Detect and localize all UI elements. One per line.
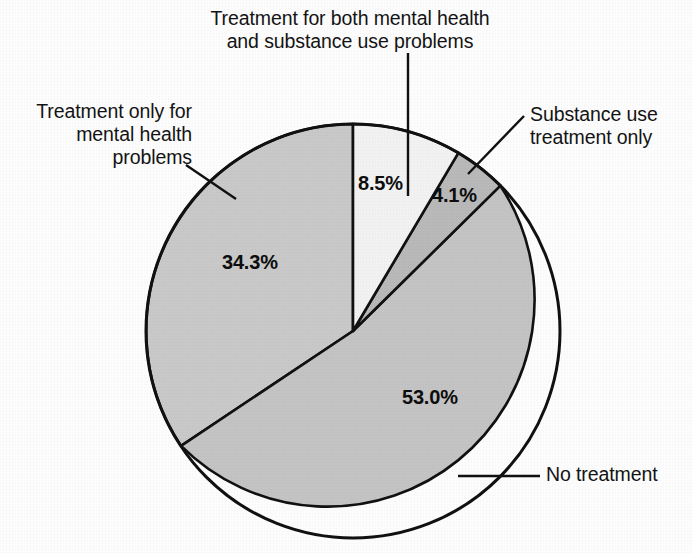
pie-chart-figure: Treatment for both mental health and sub…	[0, 0, 693, 553]
slice-value-both-treatment: 8.5%	[358, 172, 403, 195]
slice-value-no-treatment: 53.0%	[402, 386, 458, 409]
callout-label-substance-use-only: Substance use treatment only	[530, 103, 690, 149]
callout-label-mental-health-only: Treatment only for mental health problem…	[2, 100, 192, 169]
leader-line-substance-use-only	[468, 116, 524, 174]
callout-label-both-treatment: Treatment for both mental health and sub…	[190, 7, 510, 53]
callout-label-no-treatment: No treatment	[546, 463, 691, 486]
slice-value-mental-health-only: 34.3%	[222, 251, 278, 274]
slice-value-substance-use-only: 4.1%	[432, 184, 477, 207]
